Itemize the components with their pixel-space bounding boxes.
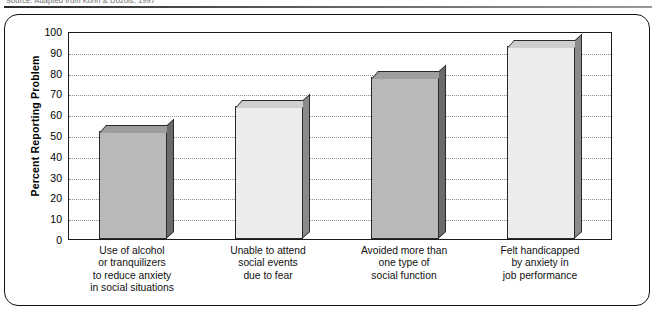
y-tick-label: 30	[30, 172, 62, 184]
x-tick-label-line: job performance	[470, 270, 610, 282]
x-tick-label-line: in social situations	[62, 282, 202, 294]
y-tick-label: 60	[30, 109, 62, 121]
y-tick-label: 100	[30, 26, 62, 38]
x-tick-label-line: Felt handicapped	[470, 245, 610, 257]
y-tick-label: 40	[30, 151, 62, 163]
y-axis-tick-labels: 1009080706050403020100	[30, 32, 62, 240]
x-tick-label-line: social events	[198, 257, 338, 269]
bar-chart: Percent Reporting Problem 10090807060504…	[0, 0, 656, 314]
bar	[507, 46, 575, 239]
bar-side-face	[303, 94, 310, 238]
x-tick-label-line: Use of alcohol	[62, 245, 202, 257]
x-tick-label: Use of alcoholor tranquilizersto reduce …	[62, 245, 202, 295]
x-tick-label-line: to reduce anxiety	[62, 270, 202, 282]
plot-area	[68, 32, 612, 240]
y-tick-label: 10	[30, 213, 62, 225]
x-tick-label-line: by anxiety in	[470, 257, 610, 269]
x-tick-label-line: social function	[334, 270, 474, 282]
x-tick-label-line: due to fear	[198, 270, 338, 282]
y-tick-label: 20	[30, 192, 62, 204]
y-tick-label: 90	[30, 47, 62, 59]
bar-side-face	[575, 33, 582, 238]
bar	[371, 77, 439, 239]
bar-side-face	[439, 64, 446, 238]
y-tick-label: 50	[30, 130, 62, 142]
bar-top-face	[235, 100, 310, 108]
bar-top-face	[371, 71, 446, 79]
y-tick-label: 70	[30, 88, 62, 100]
x-tick-label-line: one type of	[334, 257, 474, 269]
bar-side-face	[167, 119, 174, 238]
x-tick-label: Felt handicappedby anxiety injob perform…	[470, 245, 610, 282]
x-tick-label-line: Unable to attend	[198, 245, 338, 257]
x-tick-label: Unable to attendsocial eventsdue to fear	[198, 245, 338, 282]
bar-top-face	[507, 40, 582, 48]
bar	[99, 131, 167, 239]
bar-top-face	[99, 125, 174, 133]
y-tick-label: 0	[30, 234, 62, 246]
x-tick-label-line: or tranquilizers	[62, 257, 202, 269]
x-tick-label-line: Avoided more than	[334, 245, 474, 257]
y-tick-label: 80	[30, 68, 62, 80]
x-tick-label: Avoided more thanone type ofsocial funct…	[334, 245, 474, 282]
bar	[235, 106, 303, 239]
